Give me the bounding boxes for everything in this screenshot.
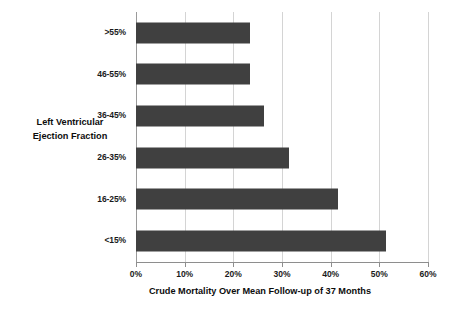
x-tick-label: 60% (419, 269, 436, 279)
x-tick-label: 50% (371, 269, 388, 279)
bar-36-45% (136, 106, 264, 127)
tickmark-50% (379, 262, 380, 267)
bar->55% (136, 22, 250, 43)
tickmark-40% (331, 262, 332, 267)
y-category-label: <15% (60, 220, 131, 262)
tickmark-30% (282, 262, 283, 267)
x-tick-label: 20% (225, 269, 242, 279)
x-axis-tick-labels: 0%10%20%30%40%50%60% (136, 269, 428, 283)
tickmark-60% (428, 262, 429, 267)
bar-row (136, 179, 428, 221)
tickmark-10% (185, 262, 186, 267)
bar-row (136, 137, 428, 179)
bar-row (136, 54, 428, 96)
x-tick-label: 10% (176, 269, 193, 279)
x-tick-label: 0% (130, 269, 142, 279)
y-category-label: 26-35% (60, 137, 131, 179)
y-category-label: 16-25% (60, 179, 131, 221)
bar-row (136, 12, 428, 54)
bar-row (136, 220, 428, 262)
x-tick-label: 30% (273, 269, 290, 279)
tickmark-20% (233, 262, 234, 267)
bar-row (136, 95, 428, 137)
tickmark-0% (136, 262, 137, 267)
y-category-label: 46-55% (60, 54, 131, 96)
x-axis-title: Crude Mortality Over Mean Follow-up of 3… (90, 286, 430, 296)
chart-figure: Left Ventricular Ejection Fraction >55%4… (0, 0, 452, 311)
x-tick-label: 40% (322, 269, 339, 279)
gridline-60% (428, 12, 429, 262)
plot-area (136, 12, 428, 262)
bar-46-55% (136, 64, 250, 85)
y-axis-category-labels: >55%46-55%36-45%26-35%16-25%<15% (60, 12, 131, 262)
y-category-label: 36-45% (60, 95, 131, 137)
bar-16-25% (136, 189, 338, 210)
bar-<15% (136, 231, 386, 252)
y-category-label: >55% (60, 12, 131, 54)
bar-26-35% (136, 147, 289, 168)
